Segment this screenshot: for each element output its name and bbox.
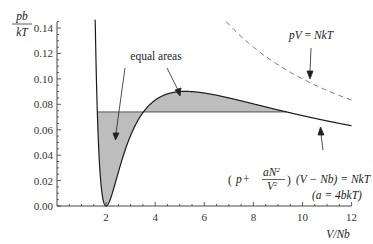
x-axis-label: V/Nb <box>326 228 350 240</box>
y-tick-label: 0.02 <box>34 175 53 187</box>
y-tick-label: 0.06 <box>34 124 54 136</box>
svg-text:p: p <box>235 173 242 186</box>
y-axis-label: pb kT <box>12 10 32 38</box>
x-tick-label: 4 <box>152 211 158 223</box>
svg-text:(a = 4bkT): (a = 4bkT) <box>312 189 362 202</box>
svg-text:(V − Nb) = NkT: (V − Nb) = NkT <box>296 173 372 186</box>
x-tick-label: 2 <box>103 211 109 223</box>
svg-text:(: ( <box>228 174 232 187</box>
y-tick-label: 0.08 <box>34 98 54 110</box>
svg-text:+: + <box>243 173 250 185</box>
x-tick-label: 12 <box>346 211 357 223</box>
ideal-gas-arrow <box>307 48 313 79</box>
svg-text:aN2: aN2 <box>263 166 280 178</box>
ideal-gas-label: pV = NkT <box>288 29 335 42</box>
vdw-equation: ( p + aN2 V2 ) (V − Nb) = NkT (a = 4bkT) <box>228 166 372 202</box>
y-label-numerator: pb <box>15 10 28 23</box>
shaded-area-lower <box>97 112 143 206</box>
y-tick-label: 0.04 <box>34 149 54 161</box>
y-tick-label: 0.14 <box>34 22 54 34</box>
chart: 0.000.020.040.060.080.100.120.1424681012… <box>0 0 373 244</box>
equal-areas-label: equal areas <box>130 50 182 63</box>
y-label-denominator: kT <box>16 26 29 38</box>
y-tick-label: 0.00 <box>34 200 54 212</box>
x-tick-label: 8 <box>251 211 257 223</box>
tick-labels: 0.000.020.040.060.080.100.120.1424681012 <box>34 22 357 223</box>
vdw-arrow <box>318 127 324 150</box>
arrow-head-icon <box>307 71 313 79</box>
svg-text:): ) <box>287 174 291 187</box>
arrow-head-icon <box>318 127 324 135</box>
x-tick-label: 10 <box>297 211 309 223</box>
y-tick-label: 0.12 <box>34 47 53 59</box>
x-tick-label: 6 <box>202 211 208 223</box>
y-tick-label: 0.10 <box>34 73 54 85</box>
svg-text:V2: V2 <box>267 180 278 192</box>
